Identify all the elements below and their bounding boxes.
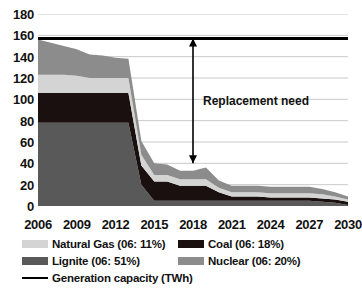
legend-item-natural-gas[interactable]: Natural Gas (06: 11%)	[22, 236, 165, 251]
x-tick-2021: 2021	[218, 218, 246, 231]
legend-item-coal[interactable]: Coal (06: 18%)	[178, 236, 284, 251]
x-tick-2006: 2006	[24, 218, 52, 231]
y-axis-tick-labels: 020406080100120140160180	[0, 0, 34, 215]
y-tick-100: 100	[0, 93, 34, 106]
legend-color-swatch-icon	[178, 240, 204, 248]
legend-item-nuclear[interactable]: Nuclear (06: 20%)	[178, 253, 300, 268]
legend-color-swatch-icon	[22, 240, 48, 248]
legend-label: Lignite (06: 51%)	[52, 255, 140, 267]
y-tick-180: 180	[0, 8, 34, 21]
legend-color-swatch-icon	[178, 257, 204, 265]
x-tick-2030: 2030	[334, 218, 362, 231]
legend-label: Natural Gas (06: 11%)	[52, 238, 165, 250]
legend-color-swatch-icon	[22, 257, 48, 265]
legend-item-generation-capacity[interactable]: Generation capacity (TWh)	[22, 270, 193, 285]
x-tick-2009: 2009	[63, 218, 91, 231]
legend-row: Lignite (06: 51%)Nuclear (06: 20%)	[0, 253, 356, 268]
y-tick-0: 0	[0, 200, 34, 213]
chart-legend: Natural Gas (06: 11%)Coal (06: 18%)Ligni…	[0, 236, 356, 292]
legend-label: Generation capacity (TWh)	[52, 272, 193, 284]
x-tick-2027: 2027	[295, 218, 323, 231]
legend-label: Nuclear (06: 20%)	[208, 255, 300, 267]
y-tick-20: 20	[0, 178, 34, 191]
replacement-need-annotation: Replacement need	[189, 39, 309, 164]
replacement-need-label: Replacement need	[203, 94, 309, 108]
x-tick-2024: 2024	[257, 218, 285, 231]
y-tick-160: 160	[0, 29, 34, 42]
chart-svg: Replacement need	[38, 14, 348, 206]
y-tick-80: 80	[0, 114, 34, 127]
arrow-head-bottom	[189, 155, 197, 163]
x-tick-2015: 2015	[140, 218, 168, 231]
x-axis-tick-labels: 200620092012201520182021202420272030	[0, 218, 356, 236]
plot-area: 020406080100120140160180 Replacement nee…	[0, 0, 356, 215]
x-tick-2018: 2018	[179, 218, 207, 231]
x-tick-2012: 2012	[102, 218, 130, 231]
y-tick-140: 140	[0, 50, 34, 63]
legend-row: Natural Gas (06: 11%)Coal (06: 18%)	[0, 236, 356, 251]
legend-label: Coal (06: 18%)	[208, 238, 284, 250]
legend-line-swatch-icon	[22, 277, 48, 279]
y-tick-120: 120	[0, 72, 34, 85]
legend-row: Generation capacity (TWh)	[0, 270, 356, 285]
chart-canvas: Replacement need	[38, 14, 348, 206]
y-tick-40: 40	[0, 157, 34, 170]
legend-item-lignite[interactable]: Lignite (06: 51%)	[22, 253, 140, 268]
y-tick-60: 60	[0, 136, 34, 149]
